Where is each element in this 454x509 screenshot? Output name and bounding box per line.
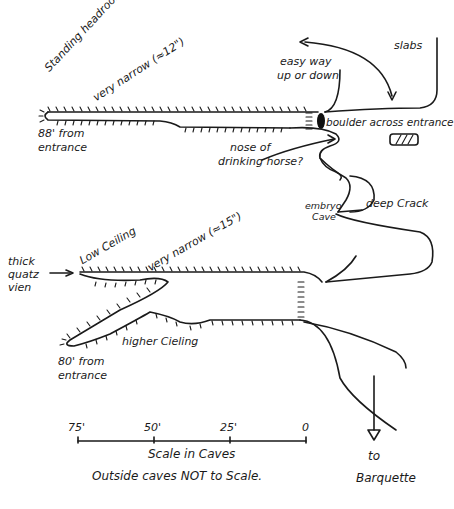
path-to-barquette xyxy=(300,320,406,440)
scale-tick-0: 0 xyxy=(302,422,309,435)
label-barquette: Barquette xyxy=(356,472,416,486)
label-entrance-80: entrance xyxy=(58,370,107,383)
label-drinking-horse: drinking horse? xyxy=(218,156,303,169)
label-to: to xyxy=(368,450,380,464)
label-nose-of: nose of xyxy=(230,142,270,155)
label-up-or-down: up or down xyxy=(277,70,339,83)
label-88-from: 88' from xyxy=(38,128,84,141)
label-higher-ceiling: higher Cieling xyxy=(122,336,198,349)
scale-bar xyxy=(78,437,306,443)
embryo-cave-area xyxy=(320,158,433,282)
scale-tick-25: 25' xyxy=(220,422,237,435)
label-vien: vien xyxy=(8,282,31,295)
label-thick: thick xyxy=(8,256,35,269)
label-slabs: slabs xyxy=(394,40,422,53)
label-deep-crack: deep Crack xyxy=(366,198,428,211)
label-entrance-88: entrance xyxy=(38,142,87,155)
label-80-from: 80' from xyxy=(58,356,104,369)
label-quatz: quatz xyxy=(8,269,39,282)
scale-tick-75: 75' xyxy=(68,422,85,435)
label-easy-way: easy way xyxy=(280,56,332,69)
scale-tick-50: 50' xyxy=(144,422,161,435)
boulder-icon xyxy=(317,113,325,129)
scale-note: Outside caves NOT to Scale. xyxy=(92,470,262,484)
label-cave: Cave xyxy=(312,212,336,223)
label-boulder: boulder across entrance xyxy=(326,116,454,128)
scale-caption: Scale in Caves xyxy=(148,448,235,462)
